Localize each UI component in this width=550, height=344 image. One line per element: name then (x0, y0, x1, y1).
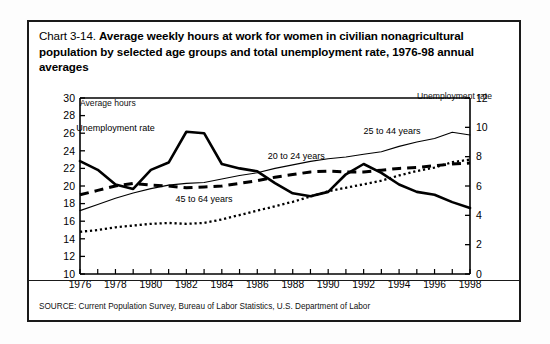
y-tick-label-left: 10 (63, 268, 75, 280)
y-tick-label-right: 12 (476, 92, 488, 104)
y-tick-label-right: 8 (476, 150, 482, 162)
y-tick-label-left: 22 (63, 162, 75, 174)
series-label-25-to-44-years: 25 to 44 years (363, 126, 421, 136)
y-tick-label-right: 10 (476, 121, 488, 133)
y-tick-label-right: 2 (476, 238, 482, 250)
y-tick-label-left: 28 (63, 109, 75, 121)
y-tick-label-right: 6 (476, 180, 482, 192)
series-label-45-to-64-years: 45 to 64 years (176, 194, 234, 204)
y-tick-label-right: 4 (476, 209, 482, 221)
series-label-unemployment-rate: Unemployment rate (76, 123, 155, 133)
y-tick-label-left: 24 (63, 145, 75, 157)
chart-plot: 1012141618202224262830024681012197619781… (29, 22, 519, 320)
chart-figure: Chart 3-14. Average weekly hours at work… (27, 20, 521, 322)
series-line-25-to-44-years (80, 132, 470, 210)
y-tick-label-right: 0 (476, 268, 482, 280)
series-label-20-to-24-years: 20 to 24 years (268, 151, 326, 161)
source-separator (29, 280, 519, 281)
source-note: SOURCE: Current Population Survey, Burea… (39, 302, 370, 311)
series-line-45-to-64-years (80, 160, 470, 232)
y-tick-label-left: 30 (63, 92, 75, 104)
y-tick-label-left: 12 (63, 250, 75, 262)
y-tick-label-left: 16 (63, 215, 75, 227)
y-tick-label-left: 26 (63, 127, 75, 139)
y-tick-label-left: 18 (63, 197, 75, 209)
y-tick-label-left: 20 (63, 180, 75, 192)
y-tick-label-left: 14 (63, 233, 75, 245)
